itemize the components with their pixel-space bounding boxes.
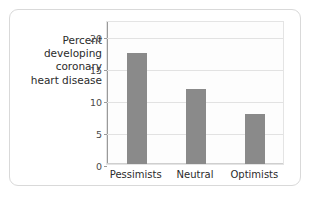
y-axis-spine <box>107 22 108 164</box>
y-tick-label: 10 <box>90 97 102 108</box>
y-tick-label: 20 <box>90 33 102 44</box>
y-tick-label: 0 <box>96 161 102 172</box>
y-tick-label: 15 <box>90 65 102 76</box>
gridline <box>107 38 283 39</box>
category-label: Pessimists <box>110 169 162 180</box>
bar <box>186 89 206 164</box>
y-tick-label: 5 <box>96 129 102 140</box>
y-tick-mark <box>104 166 107 167</box>
chart-card: Percent developing coronary heart diseas… <box>9 9 301 186</box>
y-tick-mark <box>104 102 107 103</box>
category-label: Neutral <box>177 169 214 180</box>
category-label: Optimists <box>230 169 278 180</box>
bar-chart-figure: Percent developing coronary heart diseas… <box>10 10 302 187</box>
y-tick-mark <box>104 134 107 135</box>
bar <box>127 53 147 164</box>
plot-area: 05101520 <box>106 21 284 165</box>
bar <box>245 114 265 164</box>
y-tick-mark <box>104 70 107 71</box>
y-tick-mark <box>104 38 107 39</box>
